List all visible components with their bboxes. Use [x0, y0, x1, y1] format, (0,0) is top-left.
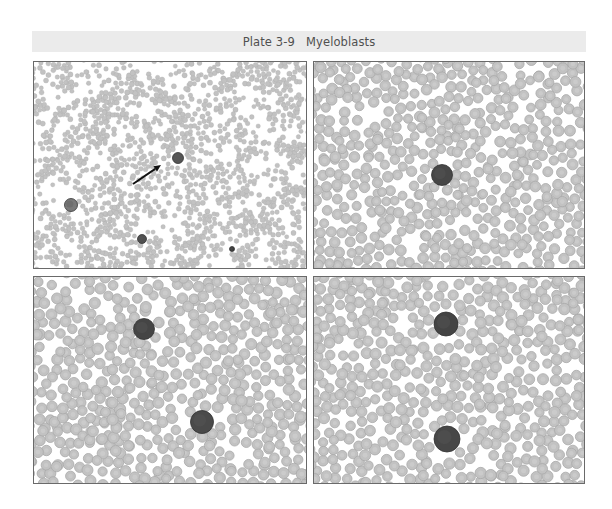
- blood-smear-image: [34, 62, 307, 269]
- blood-smear-image: [314, 277, 585, 484]
- red-blood-cells: [34, 277, 307, 484]
- myeloblast-cell: [65, 199, 78, 212]
- micrograph-panel-top-right: [313, 61, 585, 269]
- plate-title-banner: Plate 3-9 Myeloblasts: [32, 31, 586, 52]
- red-blood-cells: [34, 62, 307, 269]
- blood-smear-image: [34, 277, 307, 484]
- myeloblast-cell: [173, 153, 184, 164]
- red-blood-cells: [314, 277, 585, 484]
- blood-smear-image: [314, 62, 585, 269]
- micrograph-panel-bottom-right: [313, 276, 585, 484]
- myeloblast-cell: [138, 235, 147, 244]
- myeloblast-cell: [434, 426, 460, 452]
- myeloblast-cell: [432, 165, 453, 186]
- red-blood-cells: [314, 62, 585, 269]
- micrograph-panel-top-left: [33, 61, 307, 269]
- micrograph-panel-bottom-left: [33, 276, 307, 484]
- myeloblast-cell: [434, 312, 458, 336]
- myeloblast-cell: [191, 411, 214, 434]
- myeloblast-cell: [134, 319, 155, 340]
- myeloblast-cell: [230, 247, 235, 252]
- plate-title: Plate 3-9 Myeloblasts: [243, 35, 376, 49]
